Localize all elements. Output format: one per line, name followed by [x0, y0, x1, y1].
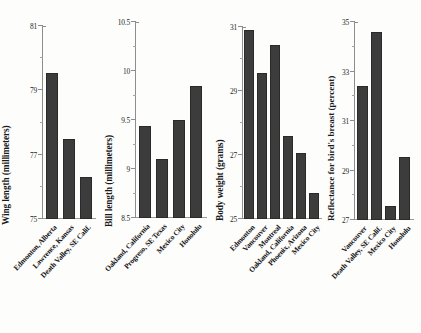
bar [46, 73, 58, 219]
y-axis-tick-label: 9.5 [121, 116, 130, 125]
y-axis-tick-label: 25 [230, 215, 237, 224]
y-axis-tick-label: 35 [342, 18, 349, 27]
y-axis-tick-label: 9 [127, 165, 131, 174]
y-axis-tick-label: 31 [342, 117, 349, 126]
bar [283, 136, 293, 219]
bar [139, 126, 151, 218]
panel-body-weight-plot-area: 25272931 [242, 27, 320, 219]
panel-reflectance-y-axis-title: Reflectance for bird's breast (percent) [326, 76, 336, 221]
bar [63, 139, 75, 219]
bar [371, 32, 382, 220]
y-axis-tick-label: 79 [30, 86, 37, 95]
bar [270, 45, 280, 219]
bar [357, 86, 368, 220]
y-axis-tick-label: 31 [230, 23, 237, 32]
panel-body-weight: Body weight (grams) 25272931 EdmontonVan… [215, 0, 330, 333]
bar [173, 120, 185, 218]
bar [296, 153, 306, 219]
bar-series [43, 26, 94, 219]
bar-series [243, 27, 320, 219]
bar [244, 30, 254, 219]
panel-body-weight-y-axis-title: Body weight (grams) [215, 140, 225, 221]
bar [309, 193, 319, 219]
bar [385, 206, 396, 220]
multi-panel-bar-figure: Wing length (millimeters) 75777981 Edmon… [0, 0, 421, 333]
bar [80, 177, 92, 219]
y-axis-tick-label: 33 [342, 67, 349, 76]
bar-series [136, 22, 205, 218]
panel-wing-length-y-axis-title: Wing length (millimeters) [1, 125, 11, 225]
bar [190, 86, 202, 218]
y-axis-tick-label: 77 [30, 150, 37, 159]
y-axis-tick-label: 10.5 [118, 18, 130, 27]
y-axis-tick-label: 10 [123, 67, 130, 76]
y-axis-tick-label: 27 [342, 216, 349, 225]
bar-series [355, 22, 412, 220]
y-axis-tick-label: 27 [230, 151, 237, 160]
panel-reflectance-plot-area: 2729313335 [354, 22, 412, 220]
bar [257, 73, 267, 219]
y-axis-tick-label: 75 [30, 215, 37, 224]
y-axis-tick-label: 29 [342, 166, 349, 175]
panel-wing-length: Wing length (millimeters) 75777981 Edmon… [0, 0, 105, 333]
panel-bill-length: Bill length (millimeters) 8.599.51010.5 … [105, 0, 215, 333]
panel-reflectance: Reflectance for bird's breast (percent) … [330, 0, 421, 333]
y-axis-tick-label: 29 [230, 87, 237, 96]
bar [399, 157, 410, 220]
panel-bill-length-plot-area: 8.599.51010.5 [135, 22, 205, 218]
bar [156, 159, 168, 218]
panel-wing-length-plot-area: 75777981 [42, 26, 94, 219]
panel-bill-length-y-axis-title: Bill length (millimeters) [104, 135, 114, 227]
y-axis-tick-label: 81 [30, 22, 37, 31]
y-axis-tick-label: 8.5 [121, 214, 130, 223]
